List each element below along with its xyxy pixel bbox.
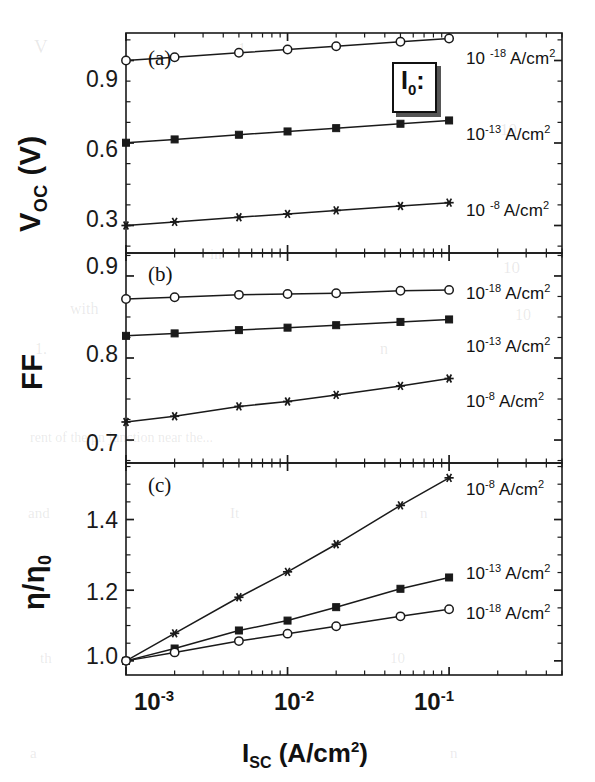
panel-c-tag: (c) bbox=[148, 473, 171, 498]
panel-b-series-label-1e-13: 10-13 A/cm2 bbox=[466, 335, 551, 357]
figure-root: V110in10with101.nrent of the pn junction… bbox=[0, 0, 595, 782]
xtick-label-1e-1: 10-1 bbox=[414, 687, 454, 716]
data-point-marker-open-circle bbox=[445, 34, 453, 42]
panel-a-series-label-1e-18: 10 -18 A/cm2 bbox=[466, 47, 555, 69]
panel-b-ytick-0.8: 0.8 bbox=[56, 341, 118, 368]
data-point-marker-star bbox=[283, 397, 292, 405]
panel-1-series-2 bbox=[123, 117, 453, 146]
panel-a-tag: (a) bbox=[148, 46, 171, 71]
data-point-marker-star bbox=[170, 412, 179, 420]
panel-b-series-label-1e-18: 10-18 A/cm2 bbox=[466, 282, 551, 304]
panel-a-series-label-1e-13: 10-13 A/cm2 bbox=[466, 123, 551, 145]
data-point-marker-filled-square bbox=[333, 125, 340, 132]
data-point-marker-star bbox=[444, 474, 453, 482]
data-point-marker-filled-square bbox=[333, 322, 340, 329]
panel-c-ytick-1.2: 1.2 bbox=[56, 579, 118, 606]
panel-1-series-3 bbox=[121, 199, 453, 230]
panel-a-ytick-0.9: 0.9 bbox=[56, 66, 118, 93]
data-point-marker-filled-square bbox=[397, 120, 404, 127]
data-point-marker-filled-square bbox=[171, 330, 178, 337]
panel-a-series-label-1e-8: 10 -8 A/cm2 bbox=[466, 199, 549, 221]
panel-b-ylabel: FF bbox=[16, 354, 49, 390]
data-point-marker-open-circle bbox=[235, 291, 243, 299]
data-point-marker-filled-square bbox=[284, 128, 291, 135]
data-point-marker-filled-square bbox=[235, 627, 242, 634]
data-point-marker-filled-square bbox=[284, 324, 291, 331]
data-point-marker-open-circle bbox=[170, 648, 178, 656]
panel-c-ytick-1.0: 1.0 bbox=[56, 643, 118, 670]
panel-2-series-2 bbox=[123, 316, 453, 339]
data-point-marker-filled-square bbox=[397, 585, 404, 592]
panel-c-series-label-1e-8: 10-8 A/cm2 bbox=[466, 478, 544, 500]
panel-c-series-label-1e-18: 10-18 A/cm2 bbox=[466, 602, 551, 624]
data-point-marker-open-circle bbox=[235, 49, 243, 57]
data-point-marker-open-circle bbox=[396, 287, 404, 295]
xtick-label-1e-2: 10-2 bbox=[274, 687, 314, 716]
data-point-marker-open-circle bbox=[332, 289, 340, 297]
data-point-marker-open-circle bbox=[283, 45, 291, 53]
panel-b-series-label-1e-8: 10-8 A/cm2 bbox=[466, 390, 544, 412]
data-point-marker-open-circle bbox=[445, 286, 453, 294]
data-point-marker-open-circle bbox=[122, 56, 130, 64]
xtick-label-1e-3: 10-3 bbox=[134, 687, 174, 716]
data-point-marker-open-circle bbox=[332, 622, 340, 630]
data-point-marker-star bbox=[234, 402, 243, 410]
data-point-marker-filled-square bbox=[446, 574, 453, 581]
data-point-marker-filled-square bbox=[397, 318, 404, 325]
data-point-marker-open-circle bbox=[396, 612, 404, 620]
panel-a-ytick-0.6: 0.6 bbox=[56, 136, 118, 163]
data-point-marker-open-circle bbox=[283, 629, 291, 637]
data-point-marker-star bbox=[170, 218, 179, 226]
legend-box-label: I0: bbox=[401, 66, 425, 98]
panel-b-ytick-0.7: 0.7 bbox=[56, 430, 118, 457]
data-point-marker-filled-square bbox=[333, 604, 340, 611]
data-point-marker-filled-square bbox=[171, 136, 178, 143]
data-point-marker-star bbox=[234, 593, 243, 601]
data-point-marker-filled-square bbox=[446, 316, 453, 323]
data-point-marker-star bbox=[332, 391, 341, 399]
data-point-marker-star bbox=[396, 382, 405, 390]
data-point-marker-star bbox=[396, 202, 405, 210]
panel-c-series-label-1e-13: 10-13 A/cm2 bbox=[466, 562, 551, 584]
data-point-marker-open-circle bbox=[122, 657, 130, 665]
data-point-marker-star bbox=[332, 206, 341, 214]
data-point-marker-open-circle bbox=[283, 290, 291, 298]
data-point-marker-star bbox=[444, 199, 453, 207]
panel-b-ytick-0.9: 0.9 bbox=[56, 253, 118, 280]
data-point-marker-open-circle bbox=[170, 53, 178, 61]
data-point-marker-open-circle bbox=[445, 605, 453, 613]
data-point-marker-star bbox=[444, 375, 453, 383]
data-point-marker-filled-square bbox=[123, 332, 130, 339]
data-point-marker-open-circle bbox=[235, 637, 243, 645]
data-point-marker-open-circle bbox=[170, 293, 178, 301]
data-point-marker-star bbox=[170, 629, 179, 637]
data-point-marker-filled-square bbox=[235, 131, 242, 138]
panel-2-series-3 bbox=[121, 375, 453, 426]
data-point-marker-star bbox=[283, 568, 292, 576]
data-point-marker-open-circle bbox=[122, 295, 130, 303]
data-point-marker-filled-square bbox=[235, 327, 242, 334]
panel-c-ytick-1.4: 1.4 bbox=[56, 507, 118, 534]
panel-b-tag: (b) bbox=[148, 262, 173, 287]
panel-c-ylabel: η/η0 bbox=[18, 554, 56, 610]
data-point-marker-star bbox=[283, 210, 292, 218]
panel-a-ylabel: VOC (V) bbox=[14, 135, 52, 232]
x-axis-label: ISC (A/cm2) bbox=[242, 738, 368, 772]
panel-2-series-1 bbox=[122, 286, 453, 303]
data-point-marker-star bbox=[234, 213, 243, 221]
legend-box-I0: I0: bbox=[392, 62, 437, 113]
data-point-marker-filled-square bbox=[446, 117, 453, 124]
data-point-marker-open-circle bbox=[332, 42, 340, 50]
data-point-marker-filled-square bbox=[123, 139, 130, 146]
data-point-marker-filled-square bbox=[284, 617, 291, 624]
data-point-marker-open-circle bbox=[396, 38, 404, 46]
panel-a-ytick-0.3: 0.3 bbox=[56, 206, 118, 233]
